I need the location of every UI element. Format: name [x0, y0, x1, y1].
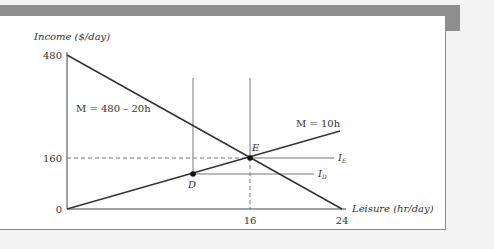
chart-svg: 480 160 0 16 24 Income ($/day) Leisure (… [0, 0, 494, 249]
point-e-marker [247, 155, 253, 161]
y-axis-title: Income ($/day) [33, 31, 110, 42]
y-tick-480: 480 [43, 50, 62, 61]
ray-equation-label: M = 10h [296, 118, 341, 129]
point-d-label: D [187, 179, 196, 190]
id-label: ID [317, 168, 327, 180]
y-tick-160: 160 [43, 153, 62, 164]
point-d-marker [190, 171, 196, 177]
income-ray-line [67, 131, 340, 209]
budget-line [67, 55, 342, 209]
ie-label: IE [337, 152, 347, 164]
point-e-label: E [251, 142, 260, 153]
budget-equation-label: M = 480 – 20h [76, 103, 151, 114]
x-tick-16: 16 [244, 215, 257, 226]
x-tick-24: 24 [336, 215, 349, 226]
x-axis-title: Leisure (hr/day) [351, 203, 434, 214]
y-tick-0: 0 [56, 204, 62, 215]
